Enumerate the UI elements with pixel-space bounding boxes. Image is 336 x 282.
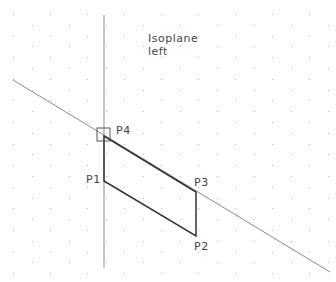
grid-dot [291, 25, 292, 26]
grid-dot [124, 14, 125, 15]
grid-dot [87, 230, 88, 231]
grid-dot [143, 198, 144, 199]
grid-dot [235, 100, 236, 101]
isoplane-label-line1: Isoplane [148, 32, 198, 45]
grid-dot [124, 165, 125, 166]
grid-dot [291, 241, 292, 242]
grid-dot [328, 176, 329, 177]
point-label-p3: P3 [194, 176, 209, 189]
grid-dot [143, 111, 144, 112]
grid-dot [180, 90, 181, 91]
grid-dot [254, 219, 255, 220]
grid-dot [87, 144, 88, 145]
grid-dot [32, 25, 33, 26]
grid-dot [309, 165, 310, 166]
grid-dot [124, 230, 125, 231]
grid-dot [180, 176, 181, 177]
grid-dot [328, 154, 329, 155]
grid-dot [161, 165, 162, 166]
grid-dot [13, 187, 14, 188]
grid-dot [143, 90, 144, 91]
grid-dot [32, 176, 33, 177]
grid-dot [235, 57, 236, 58]
grid-dot [50, 252, 51, 253]
grid-dot [87, 165, 88, 166]
grid-dot [106, 198, 107, 199]
grid-dot [272, 36, 273, 37]
grid-dot [87, 79, 88, 80]
grid-dot [143, 176, 144, 177]
grid-dot [13, 36, 14, 37]
grid-dot [291, 176, 292, 177]
grid-dot [87, 273, 88, 274]
grid-dot [309, 230, 310, 231]
grid-dot [198, 230, 199, 231]
grid-dot [87, 57, 88, 58]
grid-dot [32, 198, 33, 199]
grid-dot [254, 90, 255, 91]
grid-dot [309, 36, 310, 37]
grid-dot [124, 79, 125, 80]
grid-dot [254, 176, 255, 177]
grid-dot [50, 230, 51, 231]
grid-dot [309, 100, 310, 101]
grid-dot [328, 219, 329, 220]
grid-dot [87, 14, 88, 15]
grid-dot [217, 219, 218, 220]
grid-dot [198, 122, 199, 123]
grid-dot [235, 252, 236, 253]
grid-dot [217, 198, 218, 199]
grid-dot [180, 241, 181, 242]
grid-dot [198, 14, 199, 15]
grid-dot [254, 198, 255, 199]
grid-dot [124, 187, 125, 188]
parallelogram-shape[interactable] [104, 136, 196, 236]
grid-dot [69, 46, 70, 47]
grid-dot [328, 25, 329, 26]
grid-dot [143, 68, 144, 69]
grid-dot [235, 36, 236, 37]
grid-dot [161, 187, 162, 188]
grid-dot [69, 90, 70, 91]
grid-dot [32, 111, 33, 112]
drawing-canvas[interactable]: Isoplane left P4 P1 P3 P2 [0, 0, 336, 282]
grid-dot [180, 46, 181, 47]
grid-dot [143, 262, 144, 263]
grid-dot [32, 46, 33, 47]
grid-dot [180, 219, 181, 220]
grid-dot [272, 187, 273, 188]
grid-dot [254, 241, 255, 242]
grid-dot [272, 230, 273, 231]
grid-dot [69, 219, 70, 220]
grid-dot [50, 273, 51, 274]
grid-dot [13, 273, 14, 274]
grid-dot [272, 273, 273, 274]
grid-dot [106, 176, 107, 177]
grid-dot [69, 133, 70, 134]
grid-dot [13, 208, 14, 209]
grid-dot [106, 154, 107, 155]
grid-dot [235, 165, 236, 166]
grid-dot [106, 46, 107, 47]
grid-dot [32, 241, 33, 242]
grid-dot [198, 165, 199, 166]
point-label-p1: P1 [86, 173, 101, 186]
isometric-axis-line[interactable] [13, 80, 330, 272]
grid-dot [161, 208, 162, 209]
grid-dot [106, 219, 107, 220]
grid-dot [291, 111, 292, 112]
grid-dot [32, 90, 33, 91]
grid-dot [309, 122, 310, 123]
grid-dot [32, 219, 33, 220]
grid-dot [235, 187, 236, 188]
grid-dot [235, 79, 236, 80]
grid-dot [180, 133, 181, 134]
grid-dot [217, 25, 218, 26]
grid-dot [124, 122, 125, 123]
grid-dot [32, 133, 33, 134]
grid-dot [161, 100, 162, 101]
grid-dot [161, 273, 162, 274]
grid-dot [124, 57, 125, 58]
grid-dot [13, 252, 14, 253]
grid-dot [217, 46, 218, 47]
